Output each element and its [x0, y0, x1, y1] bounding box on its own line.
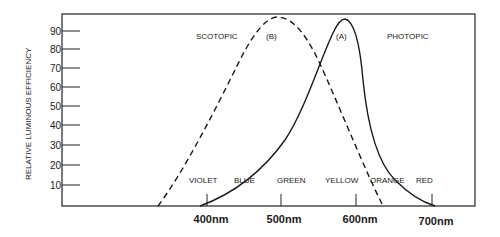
y-axis-label: RELATIVE LUMINOUS EFFICIENCY — [24, 47, 33, 180]
plot-frame — [62, 14, 475, 206]
y-tick-80: 80 — [50, 44, 62, 55]
band-violet: VIOLET — [189, 176, 218, 185]
y-tick-60: 60 — [50, 82, 62, 93]
y-tick-10: 10 — [50, 180, 62, 191]
y-tick-40: 40 — [50, 120, 62, 131]
curve-annotations: SCOTOPIC (B) (A) PHOTOPIC — [196, 32, 429, 41]
y-tick-90: 90 — [50, 26, 62, 37]
band-green: GREEN — [277, 176, 306, 185]
photopic-id-label: (A) — [336, 32, 347, 41]
band-yellow: YELLOW — [325, 176, 359, 185]
x-tick-400nm: 400nm — [194, 213, 229, 225]
scotopic-label: SCOTOPIC — [196, 32, 238, 41]
y-tick-30: 30 — [50, 140, 62, 151]
x-axis-ticks — [207, 194, 432, 206]
y-tick-50: 50 — [50, 101, 62, 112]
y-axis-tick-labels: 90 80 70 60 50 40 30 20 10 — [50, 26, 62, 191]
photopic-label: PHOTOPIC — [387, 32, 429, 41]
scotopic-id-label: (B) — [266, 32, 277, 41]
x-tick-500nm: 500nm — [267, 213, 302, 225]
band-red: RED — [416, 176, 433, 185]
luminous-efficiency-chart: RELATIVE LUMINOUS EFFICIENCY 90 80 70 60… — [0, 0, 500, 237]
y-axis-ticks — [62, 31, 80, 185]
band-blue: BLUE — [234, 176, 255, 185]
x-axis-tick-labels: 400nm 500nm 600nm 700nm — [194, 213, 454, 227]
x-tick-600nm: 600nm — [343, 213, 378, 225]
y-tick-70: 70 — [50, 63, 62, 74]
y-tick-20: 20 — [50, 160, 62, 171]
x-tick-700nm: 700nm — [419, 215, 454, 227]
